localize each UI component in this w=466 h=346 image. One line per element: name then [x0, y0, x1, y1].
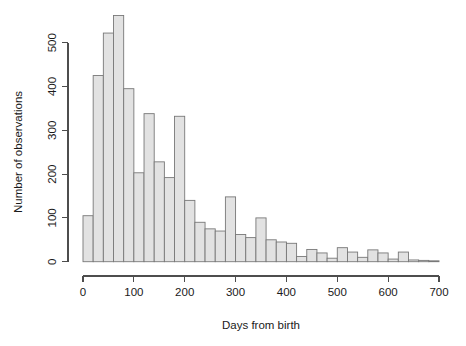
y-axis-tick-label: 400	[46, 77, 58, 96]
histogram-bar	[297, 256, 307, 261]
x-axis-tick-label: 100	[124, 286, 143, 298]
histogram-bar	[134, 173, 144, 262]
x-axis-tick-label: 500	[328, 286, 347, 298]
histogram-bar	[286, 243, 296, 261]
x-axis-tick-label: 400	[277, 286, 296, 298]
histogram-bar	[144, 114, 154, 262]
histogram-bar	[256, 218, 266, 262]
y-axis-tick-label: 500	[46, 33, 58, 52]
y-axis-tick-label: 100	[46, 208, 58, 227]
histogram-bar	[419, 260, 429, 261]
y-axis-tick-label: 300	[46, 121, 58, 140]
histogram-bar	[164, 178, 174, 262]
histogram-bar	[327, 258, 337, 262]
y-axis-tick-label: 0	[46, 258, 58, 264]
histogram-bar	[103, 33, 113, 262]
histogram-bar	[154, 162, 164, 262]
histogram-bar	[358, 257, 368, 261]
histogram-bar	[429, 261, 439, 262]
y-axis-title: Number of observations	[12, 91, 24, 213]
histogram-bar	[388, 259, 398, 262]
x-axis-ticks	[83, 276, 439, 282]
y-axis-ticks	[62, 43, 68, 262]
x-axis-tick-label: 300	[226, 286, 245, 298]
histogram-bar	[236, 235, 246, 262]
x-axis-tick-label: 200	[175, 286, 194, 298]
histogram-bar	[83, 216, 93, 262]
histogram-bar	[266, 240, 276, 262]
y-axis-tick-label: 200	[46, 165, 58, 184]
x-axis-tick-label: 0	[80, 286, 86, 298]
histogram-bar	[225, 197, 235, 262]
histogram-bar	[114, 16, 124, 262]
histogram-bar	[93, 76, 103, 262]
histogram-bar	[175, 116, 185, 261]
histogram-bar	[408, 260, 418, 262]
histogram-figure: 0100200300400500600700 0100200300400500 …	[0, 0, 466, 346]
histogram-bar	[398, 252, 408, 262]
histogram-bars	[83, 16, 439, 262]
histogram-bar	[337, 248, 347, 262]
histogram-plot: 0100200300400500600700 0100200300400500 …	[0, 0, 466, 346]
histogram-bar	[276, 242, 286, 262]
histogram-bar	[317, 253, 327, 262]
histogram-bar	[195, 222, 205, 261]
histogram-bar	[215, 231, 225, 262]
y-axis-tick-labels: 0100200300400500	[46, 33, 58, 265]
histogram-bar	[246, 238, 256, 262]
histogram-bar	[185, 200, 195, 261]
x-axis-tick-label: 700	[429, 286, 448, 298]
histogram-bar	[307, 249, 317, 261]
histogram-bar	[124, 89, 134, 262]
y-axis: 0100200300400500	[46, 33, 68, 265]
x-axis: 0100200300400500600700	[80, 276, 449, 298]
histogram-bar	[368, 250, 378, 262]
histogram-bar	[378, 253, 388, 262]
histogram-bar	[205, 229, 215, 262]
x-axis-tick-label: 600	[379, 286, 398, 298]
x-axis-title: Days from birth	[222, 319, 300, 331]
histogram-bar	[347, 252, 357, 262]
x-axis-tick-labels: 0100200300400500600700	[80, 286, 449, 298]
